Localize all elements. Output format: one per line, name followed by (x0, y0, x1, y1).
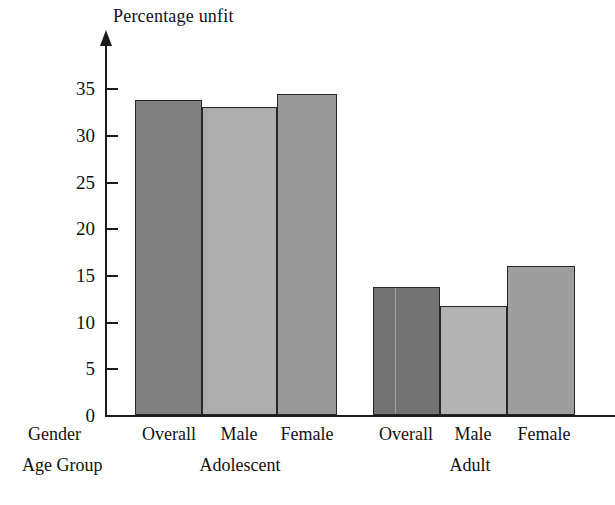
row-header-age-group: Age Group (22, 455, 102, 475)
bar-adolescent-male (202, 107, 277, 415)
y-tick-label-25: 25 (59, 173, 95, 192)
y-tick-label-5: 5 (59, 359, 95, 378)
bar-adult-overall (373, 287, 440, 415)
y-tick-label-10: 10 (59, 313, 95, 332)
y-tick-20 (107, 228, 118, 230)
bar-inner-rule (395, 288, 396, 414)
y-tick-label-0: 0 (59, 406, 95, 425)
y-tick-10 (107, 322, 118, 324)
gender-label-adult-male: Male (437, 424, 509, 444)
y-tick-15 (107, 275, 118, 277)
bar-adult-female (507, 266, 575, 415)
y-tick-35 (107, 88, 118, 90)
gender-label-adolescent-overall: Overall (133, 424, 205, 444)
gender-label-adolescent-male: Male (203, 424, 275, 444)
y-tick-25 (107, 182, 118, 184)
row-header-gender: Gender (28, 424, 81, 444)
gender-label-adolescent-female: Female (271, 424, 343, 444)
y-tick-label-15: 15 (59, 266, 95, 285)
y-axis-title: Percentage unfit (113, 6, 234, 26)
bar-adolescent-overall (135, 100, 202, 415)
y-tick-5 (107, 368, 118, 370)
y-tick-label-30: 30 (59, 126, 95, 145)
bar-adolescent-female (277, 94, 337, 415)
y-tick-label-20: 20 (59, 219, 95, 238)
bar-chart-figure: Percentage unfit 35 30 25 20 15 10 5 0 (0, 0, 615, 505)
y-tick-label-35: 35 (59, 79, 95, 98)
gender-label-adult-overall: Overall (370, 424, 442, 444)
gender-label-adult-female: Female (505, 424, 583, 444)
plot-area: 35 30 25 20 15 10 5 0 (105, 30, 605, 415)
bar-adult-male (440, 306, 507, 415)
x-axis-line (105, 415, 615, 417)
age-group-label-adult: Adult (415, 455, 525, 475)
age-group-label-adolescent: Adolescent (175, 455, 305, 475)
y-tick-30 (107, 135, 118, 137)
